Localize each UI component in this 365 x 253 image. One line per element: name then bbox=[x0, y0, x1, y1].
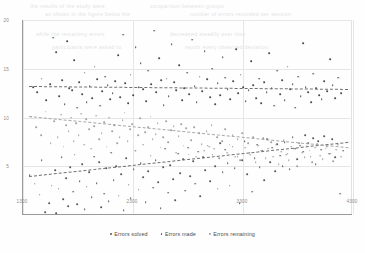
data-point bbox=[250, 60, 252, 62]
data-point bbox=[155, 133, 157, 135]
data-point bbox=[189, 175, 191, 177]
data-point bbox=[155, 91, 157, 93]
data-point bbox=[278, 163, 280, 165]
data-point bbox=[101, 132, 103, 134]
data-point bbox=[49, 202, 51, 204]
data-point bbox=[58, 95, 60, 97]
data-point bbox=[270, 141, 272, 143]
data-point bbox=[264, 179, 266, 181]
data-point bbox=[153, 30, 155, 32]
data-point bbox=[55, 51, 57, 53]
data-point bbox=[269, 52, 271, 54]
data-point bbox=[315, 163, 317, 165]
data-point bbox=[124, 112, 126, 114]
data-point bbox=[96, 79, 98, 81]
data-point bbox=[63, 146, 65, 148]
data-point bbox=[73, 59, 75, 61]
data-point bbox=[219, 142, 221, 144]
data-point bbox=[255, 162, 257, 164]
data-point bbox=[124, 83, 126, 85]
data-point bbox=[224, 128, 226, 130]
data-point bbox=[287, 66, 289, 68]
gridline-horizontal bbox=[23, 166, 352, 167]
data-point bbox=[280, 151, 282, 153]
data-point bbox=[253, 84, 255, 86]
legend-item[interactable]: Errors made bbox=[161, 231, 196, 237]
data-point bbox=[127, 102, 129, 104]
data-point bbox=[45, 111, 47, 113]
data-point bbox=[170, 164, 172, 166]
data-point bbox=[99, 105, 101, 107]
data-point bbox=[340, 92, 342, 94]
data-point bbox=[309, 150, 311, 152]
data-point bbox=[322, 159, 324, 161]
data-point bbox=[120, 173, 122, 175]
data-point bbox=[80, 113, 82, 115]
data-point bbox=[178, 135, 180, 137]
data-point bbox=[247, 173, 249, 175]
data-point bbox=[297, 76, 299, 78]
data-point bbox=[209, 180, 211, 182]
data-point bbox=[188, 154, 190, 156]
data-point bbox=[157, 123, 159, 125]
data-point bbox=[217, 188, 219, 190]
legend-marker-icon bbox=[110, 233, 112, 235]
data-point bbox=[162, 166, 164, 168]
data-point bbox=[49, 84, 51, 86]
data-point bbox=[312, 137, 314, 139]
data-point bbox=[331, 138, 333, 140]
data-point bbox=[337, 77, 339, 79]
data-point bbox=[254, 158, 256, 160]
data-point bbox=[96, 182, 98, 184]
data-point bbox=[172, 178, 174, 180]
data-point bbox=[50, 142, 52, 144]
data-point bbox=[110, 98, 112, 100]
data-point bbox=[106, 146, 108, 148]
data-point bbox=[217, 83, 219, 85]
data-point bbox=[237, 156, 239, 158]
data-point bbox=[100, 206, 102, 208]
legend-item[interactable]: Errors solved bbox=[110, 231, 148, 237]
data-point bbox=[68, 87, 70, 89]
data-point bbox=[192, 161, 194, 163]
data-point bbox=[83, 144, 85, 146]
ghost-text-line: as shown in the figure below the bbox=[45, 11, 130, 17]
data-point bbox=[66, 124, 68, 126]
data-point bbox=[57, 136, 59, 138]
data-point bbox=[292, 84, 294, 86]
data-point bbox=[168, 95, 170, 97]
data-point bbox=[137, 134, 139, 136]
data-point bbox=[271, 147, 273, 149]
data-point bbox=[123, 209, 125, 211]
data-point bbox=[235, 48, 237, 50]
data-point bbox=[73, 140, 75, 142]
data-point bbox=[62, 199, 64, 201]
data-point bbox=[173, 82, 175, 84]
data-point bbox=[342, 150, 344, 152]
data-point bbox=[279, 155, 281, 157]
data-point bbox=[95, 115, 97, 117]
ghost-text-line: number of errors recorded per session bbox=[190, 11, 291, 17]
data-point bbox=[232, 81, 234, 83]
data-point bbox=[310, 101, 312, 103]
trendline bbox=[28, 116, 347, 148]
data-point bbox=[67, 205, 69, 207]
data-point bbox=[104, 76, 106, 78]
data-point bbox=[41, 160, 43, 162]
data-point bbox=[334, 157, 336, 159]
data-point bbox=[304, 134, 306, 136]
data-point bbox=[175, 200, 177, 202]
gridline-vertical bbox=[243, 20, 244, 214]
data-point bbox=[122, 120, 124, 122]
legend-item[interactable]: Errors remaining bbox=[209, 231, 255, 237]
data-point bbox=[258, 78, 260, 80]
data-point bbox=[279, 93, 281, 95]
data-point bbox=[269, 162, 271, 164]
data-point bbox=[145, 100, 147, 102]
data-point bbox=[260, 102, 262, 104]
data-point bbox=[140, 62, 142, 64]
data-point bbox=[201, 143, 203, 145]
data-point bbox=[52, 37, 54, 39]
data-point bbox=[109, 117, 111, 119]
data-point bbox=[93, 125, 95, 127]
